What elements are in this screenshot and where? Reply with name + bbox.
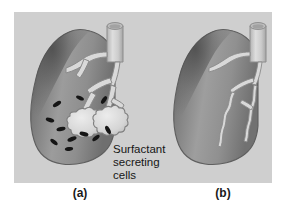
bronchus-trunk-b [250, 26, 266, 62]
caption-row: (a) (b) [0, 186, 284, 208]
surfactant-secreting-cells-label: Surfactant secreting cells [113, 143, 166, 181]
caption-panel-a: (a) [64, 186, 96, 200]
bronchus-lumen-inner-b [252, 24, 263, 28]
bronchus-trunk-a [107, 26, 123, 62]
annotation-line-3: cells [113, 169, 136, 181]
annotation-line-2: secreting [113, 156, 160, 168]
annotation-line-1: Surfactant [113, 143, 166, 155]
caption-panel-b: (b) [207, 186, 239, 200]
lung-diagram-b [174, 23, 266, 165]
bronchus-lumen-inner-a [109, 24, 120, 28]
lung-comparison-illustration: Surfactant secreting cells [14, 12, 272, 183]
illustration-panel: Surfactant secreting cells [14, 12, 272, 183]
figure-root: Surfactant secreting cells [0, 0, 284, 211]
